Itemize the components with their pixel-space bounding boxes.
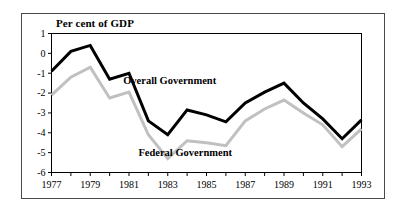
chart-plot-area: 10-1-2-3-4-5-619771979198119831985198719… — [0, 0, 406, 213]
y-axis-tick-label: -1 — [37, 68, 45, 79]
x-axis-tick-label: 1981 — [119, 179, 139, 190]
y-axis-tick-label: -4 — [37, 127, 45, 138]
y-axis-tick-label: -6 — [37, 167, 45, 178]
y-axis-tick-label: -2 — [37, 87, 45, 98]
series-line-overall-government — [52, 45, 362, 138]
x-axis-tick-label: 1979 — [80, 179, 100, 190]
x-axis-tick-label: 1989 — [274, 179, 294, 190]
x-axis-tick-label: 1993 — [352, 179, 372, 190]
x-axis-tick-label: 1983 — [158, 179, 178, 190]
x-axis-tick-label: 1991 — [313, 179, 333, 190]
x-axis-tick-label: 1987 — [235, 179, 255, 190]
series-label-federal-government: Federal Government — [138, 147, 232, 158]
plot-series-lines — [52, 45, 362, 158]
y-axis-tick-label: 1 — [41, 28, 46, 39]
figure-root: Per cent of GDP 10-1-2-3-4-5-61977197919… — [0, 0, 406, 213]
y-axis-tick-label: -5 — [37, 147, 45, 158]
x-axis-tick-label: 1985 — [197, 179, 217, 190]
y-axis-tick-label: 0 — [41, 48, 46, 59]
x-axis-tick-label: 1977 — [42, 179, 62, 190]
y-axis-tick-label: -3 — [37, 107, 45, 118]
series-label-overall-government: Overall Government — [123, 75, 217, 86]
plot-tick-labels: 10-1-2-3-4-5-619771979198119831985198719… — [37, 28, 371, 190]
